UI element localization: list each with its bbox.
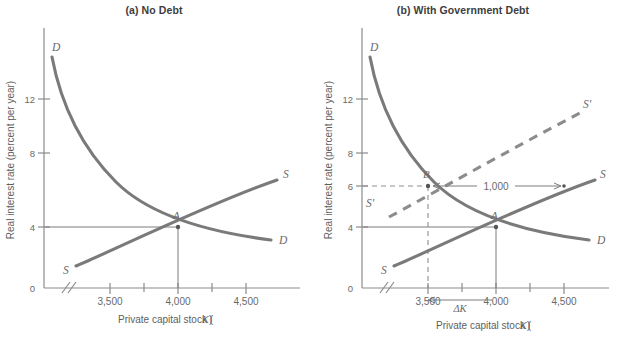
label-supply-shift-top: S' xyxy=(583,98,592,110)
x-ticklabel-4000: 4,000 xyxy=(165,296,190,307)
x-ticklabel-4500: 4,500 xyxy=(551,296,576,307)
demand-curve-d xyxy=(52,57,271,240)
x-axis-title-main: Private capital stock ( xyxy=(118,314,214,325)
y-axis-title: Real interest rate (percent per year) xyxy=(5,81,16,239)
y-ticklabel-4: 4 xyxy=(30,222,35,233)
label-demand-right: D xyxy=(596,234,606,246)
supply-curve-s xyxy=(76,180,277,266)
label-point-a: A xyxy=(490,209,498,221)
panel-with-government-debt: (b) With Government Debt xyxy=(309,0,617,339)
x-axis-title-end: ) xyxy=(209,314,212,325)
demand-curve-d xyxy=(370,57,589,240)
point-a-marker xyxy=(494,225,498,229)
label-supply-top: S xyxy=(600,168,606,180)
economics-figure: (a) No Debt xyxy=(0,0,617,339)
y-ticklabel-12: 12 xyxy=(24,94,35,105)
panel-a-plot: D D S S A 12 8 4 0 3,500 4,000 4,500 Rea… xyxy=(0,0,308,339)
y-ticklabel-8: 8 xyxy=(348,148,353,159)
supply-curve-s xyxy=(394,180,595,266)
y-ticklabel-8: 8 xyxy=(30,148,35,159)
y-ticklabel-0: 0 xyxy=(30,283,35,294)
x-axis-title-main: Private capital stock ( xyxy=(436,320,532,331)
label-supply-bottom: S xyxy=(381,264,387,276)
x-axis-title-end: ) xyxy=(527,320,530,331)
label-demand-top: D xyxy=(369,41,379,53)
y-ticklabel-12: 12 xyxy=(342,94,353,105)
x-axis-title: Private capital stock ( K ) xyxy=(436,320,532,331)
arrow-end-marker xyxy=(562,184,566,188)
panel-no-debt: (a) No Debt xyxy=(0,0,308,339)
y-ticklabel-6: 6 xyxy=(348,181,353,192)
label-demand-right: D xyxy=(278,234,288,246)
x-axis-title: Private capital stock ( K ) xyxy=(118,314,214,325)
point-b-marker xyxy=(426,184,430,188)
label-point-a: A xyxy=(172,209,180,221)
label-delta-k: ΔK xyxy=(452,303,467,314)
y-axis-title: Real interest rate (percent per year) xyxy=(323,81,334,239)
y-ticklabel-4: 4 xyxy=(348,222,353,233)
point-a-marker xyxy=(176,225,180,229)
panel-b-plot: 1,000 ΔK D D S S S' S' A B 12 8 6 xyxy=(309,0,617,339)
label-shift-amount: 1,000 xyxy=(483,181,508,192)
x-ticklabel-4000: 4,000 xyxy=(483,296,508,307)
label-supply-bottom: S xyxy=(63,264,69,276)
x-ticklabel-3500: 3,500 xyxy=(97,296,122,307)
label-point-b: B xyxy=(423,168,430,180)
x-ticklabel-3500: 3,500 xyxy=(415,296,440,307)
x-ticklabel-4500: 4,500 xyxy=(233,296,258,307)
label-demand-top: D xyxy=(51,41,61,53)
y-ticklabel-0: 0 xyxy=(348,283,353,294)
label-supply-shift-bottom: S' xyxy=(366,197,375,209)
label-supply-top: S xyxy=(283,168,289,180)
